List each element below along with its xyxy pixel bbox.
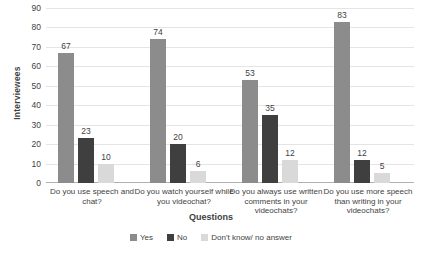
bar-slot: 10 <box>98 8 114 183</box>
x-axis-category-label: Do you use more speech than writing in y… <box>317 187 419 216</box>
legend-item[interactable]: Don't know/ no answer <box>201 233 292 242</box>
bar-group: 83125 <box>322 8 414 183</box>
legend-label: Yes <box>140 233 153 242</box>
bar-value-label: 67 <box>61 41 70 51</box>
legend-swatch-icon <box>201 234 208 241</box>
bar-value-label: 5 <box>380 161 385 171</box>
bar-value-label: 83 <box>337 10 346 20</box>
bar-slot: 74 <box>150 8 166 183</box>
legend-label: No <box>177 233 187 242</box>
bar[interactable] <box>282 160 298 183</box>
bar-value-label: 20 <box>173 132 182 142</box>
bar-slot: 83 <box>334 8 350 183</box>
bar-value-label: 10 <box>101 152 110 162</box>
bar-slot: 12 <box>354 8 370 183</box>
legend-label: Don't know/ no answer <box>211 233 292 242</box>
bar-slot: 12 <box>282 8 298 183</box>
bar-value-label: 6 <box>196 159 201 169</box>
bar[interactable] <box>334 22 350 183</box>
bar[interactable] <box>150 39 166 183</box>
bar-slot: 20 <box>170 8 186 183</box>
bar-value-label: 74 <box>153 27 162 37</box>
legend-swatch-icon <box>167 234 174 241</box>
y-axis-tick-label: 10 <box>32 159 41 169</box>
x-axis-category-label: Do you always use written comments in yo… <box>225 187 327 216</box>
bar[interactable] <box>190 171 206 183</box>
bar-slot: 6 <box>190 8 206 183</box>
x-axis-category-label: Do you watch yourself while you videocha… <box>133 187 235 206</box>
y-axis-tick-label: 20 <box>32 139 41 149</box>
bar-group: 74206 <box>138 8 230 183</box>
bar[interactable] <box>354 160 370 183</box>
bar[interactable] <box>78 138 94 183</box>
bar[interactable] <box>262 115 278 183</box>
bar-slot: 35 <box>262 8 278 183</box>
y-axis-tick-label: 70 <box>32 42 41 52</box>
y-axis-tick-label: 60 <box>32 61 41 71</box>
legend-item[interactable]: Yes <box>130 233 153 242</box>
bar-value-label: 35 <box>265 103 274 113</box>
bar-group: 672310 <box>46 8 138 183</box>
chart-legend: YesNoDon't know/ no answer <box>0 233 422 242</box>
x-axis-category-label: Do you use speech and chat? <box>41 187 143 206</box>
bar-group: 533512 <box>230 8 322 183</box>
legend-item[interactable]: No <box>167 233 187 242</box>
bar-slot: 5 <box>374 8 390 183</box>
bar[interactable] <box>58 53 74 183</box>
bar-value-label: 12 <box>357 148 366 158</box>
y-axis-tick-label: 50 <box>32 81 41 91</box>
y-axis-tick-label: 40 <box>32 100 41 110</box>
bar[interactable] <box>242 80 258 183</box>
y-axis-tick-label: 80 <box>32 22 41 32</box>
bar-value-label: 12 <box>285 148 294 158</box>
y-axis-tick-label: 90 <box>32 3 41 13</box>
y-axis-tick-label: 30 <box>32 120 41 130</box>
bar[interactable] <box>98 164 114 183</box>
bar[interactable] <box>374 173 390 183</box>
bar-slot: 67 <box>58 8 74 183</box>
bar[interactable] <box>170 144 186 183</box>
bar-value-label: 53 <box>245 68 254 78</box>
bar-chart: Interviewees 010203040506070809067231074… <box>0 0 422 253</box>
legend-swatch-icon <box>130 234 137 241</box>
plot-area: 0102030405060708090672310742065335128312… <box>46 8 414 183</box>
bar-slot: 23 <box>78 8 94 183</box>
bar-slot: 53 <box>242 8 258 183</box>
y-axis-title: Interviewees <box>12 38 22 148</box>
bar-value-label: 23 <box>81 126 90 136</box>
